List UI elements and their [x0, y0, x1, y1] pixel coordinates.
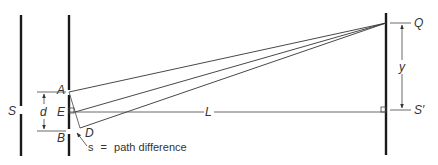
annotation-text: path difference: [114, 141, 187, 153]
label-A: A: [56, 83, 65, 97]
label-y: y: [398, 60, 406, 74]
perpendicular-AD: [69, 92, 80, 128]
annotation-equals: =: [101, 141, 107, 153]
double-slit-diagram: S A E B D d L Q S′ y s = path difference: [0, 0, 438, 165]
label-B: B: [57, 131, 65, 145]
label-S: S: [8, 104, 16, 118]
path-difference-annotation: s = path difference: [88, 141, 187, 153]
label-d: d: [40, 105, 47, 119]
label-E: E: [57, 105, 66, 119]
label-L: L: [205, 105, 212, 119]
annotation-symbol: s: [88, 141, 94, 153]
label-Q: Q: [414, 16, 423, 30]
label-S-prime: S′: [414, 103, 425, 117]
label-D: D: [85, 126, 94, 140]
